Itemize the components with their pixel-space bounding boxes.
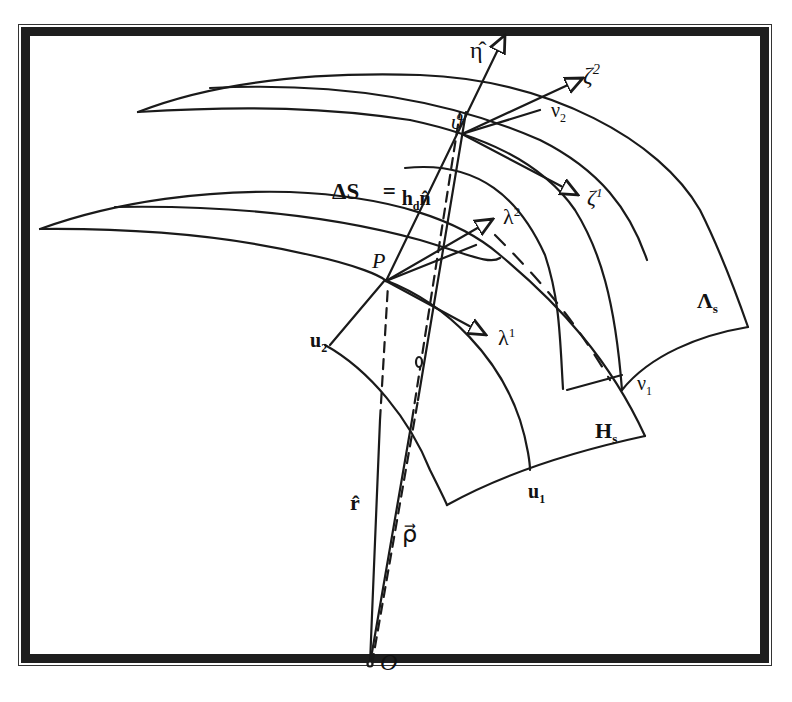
label-lambda-1: λ1 <box>498 326 515 349</box>
label-u-1: u1 <box>528 481 545 505</box>
label-rho-vector: ρ⃗ <box>402 522 417 546</box>
label-origin: O <box>380 650 397 674</box>
label-h-s-surface: Hs <box>595 420 617 446</box>
label-nu-1: ν1 <box>637 373 652 397</box>
origin-point <box>368 662 373 667</box>
label-zeta-2: ζ2 <box>583 62 600 87</box>
label-u-2: u2 <box>310 330 327 354</box>
surface-lambda-s <box>138 74 748 390</box>
label-lambda-2: λ2 <box>503 205 520 228</box>
dashed-projection <box>495 235 610 380</box>
vectors-at-theta <box>462 78 583 195</box>
label-eta-hat: η̂ <box>470 38 483 62</box>
label-point-p: P <box>372 250 385 272</box>
surface-h-s <box>40 192 645 505</box>
label-theta-point: ϑ <box>451 111 462 133</box>
label-delta-s: ΔS⃗ = hdn̂ <box>332 180 431 206</box>
label-r-vector: r̂ <box>350 492 360 514</box>
label-nu-2: ν2 <box>551 100 566 124</box>
surfaces-diagram <box>0 0 792 702</box>
label-lambda-s-surface: Λs <box>697 290 718 316</box>
vector-midpoint-marker <box>416 357 422 367</box>
label-zeta-1: ζ1 <box>587 186 603 209</box>
